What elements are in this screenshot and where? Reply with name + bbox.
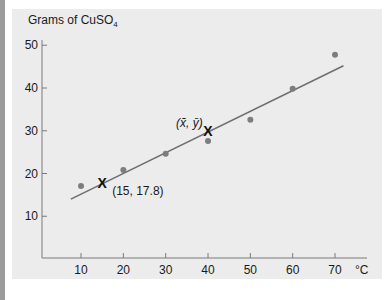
x-tick-label: 30 (159, 263, 173, 277)
y-axis-title: Grams of CuSO4 (28, 13, 118, 29)
x-tick-label: 60 (286, 263, 300, 277)
mean-label: (x̄, ȳ) (176, 116, 203, 130)
point-label: (15, 17.8) (112, 184, 163, 198)
data-points (78, 52, 338, 189)
y-tick-label: 20 (25, 167, 39, 181)
x-marker: X (203, 123, 213, 139)
ticks: 102030405010203040506070 (25, 38, 342, 277)
scatter-chart: 102030405010203040506070 XX(15, 17.8)(x̄… (0, 0, 390, 300)
y-tick-label: 40 (25, 81, 39, 95)
x-marker: X (98, 175, 108, 191)
x-tick-label: 50 (244, 263, 258, 277)
x-tick-label: 10 (74, 263, 88, 277)
data-point (78, 183, 84, 189)
x-tick-label: 40 (201, 263, 215, 277)
data-point (247, 117, 253, 123)
data-point (290, 86, 296, 92)
data-point (163, 151, 169, 157)
y-tick-label: 30 (25, 124, 39, 138)
axes (42, 40, 367, 258)
x-axis-unit: °C (355, 263, 369, 277)
x-tick-label: 70 (328, 263, 342, 277)
data-point (120, 167, 126, 173)
y-tick-label: 50 (25, 38, 39, 52)
x-tick-label: 20 (117, 263, 131, 277)
data-point (332, 52, 338, 58)
y-tick-label: 10 (25, 209, 39, 223)
